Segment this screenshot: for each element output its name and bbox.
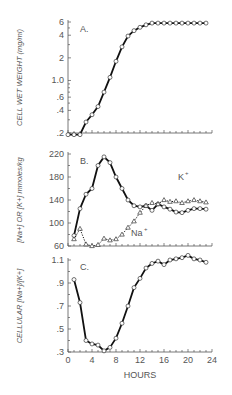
circle-marker bbox=[102, 349, 106, 353]
circle-marker bbox=[162, 263, 166, 267]
circle-marker bbox=[204, 21, 208, 25]
circle-marker bbox=[126, 198, 130, 202]
na-annotation: Na bbox=[131, 228, 143, 238]
circle-marker bbox=[126, 304, 130, 308]
circle-marker bbox=[114, 59, 118, 63]
y-tick-label: .6 bbox=[56, 92, 64, 102]
svg-text:+: + bbox=[185, 170, 189, 176]
circle-marker bbox=[156, 259, 160, 263]
circle-marker bbox=[186, 208, 190, 212]
circle-marker bbox=[186, 21, 190, 25]
circle-marker bbox=[108, 75, 112, 79]
circle-marker bbox=[180, 256, 184, 260]
y-tick-label: 2 bbox=[59, 53, 64, 63]
circle-marker bbox=[162, 21, 166, 25]
x-tick-label: 16 bbox=[159, 355, 169, 365]
triangle-marker bbox=[174, 199, 179, 203]
circle-marker bbox=[174, 210, 178, 214]
circle-marker bbox=[150, 21, 154, 25]
y-tick-label: .3 bbox=[56, 347, 64, 357]
y-tick-label: .2 bbox=[56, 128, 64, 138]
circle-marker bbox=[114, 336, 118, 340]
circle-marker bbox=[174, 21, 178, 25]
y-tick-label: 1.1 bbox=[51, 255, 64, 265]
triangle-marker bbox=[192, 198, 197, 202]
circle-marker bbox=[180, 21, 184, 25]
y-tick-label: .7 bbox=[56, 301, 64, 311]
circle-marker bbox=[90, 113, 94, 117]
y-tick-label: .4 bbox=[56, 105, 64, 115]
panel-label: B. bbox=[80, 156, 89, 166]
circle-marker bbox=[144, 266, 148, 270]
circle-marker bbox=[102, 155, 106, 159]
circle-marker bbox=[150, 261, 154, 265]
y-tick-label: 1.0 bbox=[51, 75, 64, 85]
circle-marker bbox=[108, 345, 112, 349]
circle-marker bbox=[132, 286, 136, 290]
circle-marker bbox=[192, 207, 196, 211]
x-tick-label: 8 bbox=[113, 355, 118, 365]
triangle-marker bbox=[120, 232, 125, 236]
triangle-marker bbox=[150, 200, 155, 204]
panel-label: C. bbox=[80, 262, 89, 272]
circle-marker bbox=[192, 21, 196, 25]
circle-marker bbox=[78, 133, 82, 137]
series-line bbox=[74, 255, 206, 350]
circle-marker bbox=[90, 342, 94, 346]
circle-marker bbox=[102, 90, 106, 94]
circle-marker bbox=[168, 207, 172, 211]
circle-marker bbox=[84, 120, 88, 124]
circle-marker bbox=[120, 321, 124, 325]
triangle-marker bbox=[84, 242, 89, 246]
triangle-marker bbox=[96, 242, 101, 246]
triangle-marker bbox=[204, 200, 209, 204]
circle-marker bbox=[120, 187, 124, 191]
circle-marker bbox=[96, 105, 100, 109]
circle-marker bbox=[204, 260, 208, 264]
y-tick-label: 4 bbox=[59, 30, 64, 40]
circle-marker bbox=[108, 161, 112, 165]
circle-marker bbox=[198, 21, 202, 25]
circle-marker bbox=[138, 276, 142, 280]
panel-label: A. bbox=[80, 24, 89, 34]
circle-marker bbox=[156, 21, 160, 25]
y-tick-label: .9 bbox=[56, 278, 64, 288]
y-tick-label: 140 bbox=[49, 195, 64, 205]
circle-marker bbox=[180, 211, 184, 215]
circle-marker bbox=[168, 21, 172, 25]
triangle-marker bbox=[132, 219, 137, 223]
circle-marker bbox=[78, 301, 82, 305]
y-tick-label: 100 bbox=[49, 218, 64, 228]
circle-marker bbox=[198, 258, 202, 262]
circle-marker bbox=[96, 343, 100, 347]
circle-marker bbox=[84, 339, 88, 343]
circle-marker bbox=[174, 257, 178, 261]
x-tick-label: 12 bbox=[135, 355, 145, 365]
circle-marker bbox=[150, 208, 154, 212]
y-tick-label: 60 bbox=[54, 241, 64, 251]
circle-marker bbox=[126, 34, 130, 38]
x-tick-label: 20 bbox=[183, 355, 193, 365]
y-tick-label: 6 bbox=[59, 17, 64, 27]
x-tick-label: 4 bbox=[89, 355, 94, 365]
circle-marker bbox=[138, 25, 142, 29]
triangle-marker bbox=[138, 210, 143, 214]
circle-marker bbox=[66, 133, 70, 137]
circle-marker bbox=[168, 258, 172, 262]
triangle-marker bbox=[198, 199, 203, 203]
x-tick-label: 0 bbox=[65, 355, 70, 365]
circle-marker bbox=[78, 207, 82, 211]
circle-marker bbox=[84, 192, 88, 196]
circle-marker bbox=[96, 164, 100, 168]
y-axis-title: [Na+] OR [K+] mmoles/kg bbox=[15, 156, 24, 243]
circle-marker bbox=[186, 253, 190, 257]
triangle-marker bbox=[78, 226, 83, 230]
x-axis-title: HOURS bbox=[124, 370, 157, 380]
triangle-marker bbox=[102, 236, 107, 240]
circle-marker bbox=[72, 278, 76, 282]
circle-marker bbox=[90, 187, 94, 191]
circle-marker bbox=[120, 45, 124, 49]
triangle-marker bbox=[162, 198, 167, 202]
circle-marker bbox=[138, 205, 142, 209]
y-tick-label: .5 bbox=[56, 324, 64, 334]
